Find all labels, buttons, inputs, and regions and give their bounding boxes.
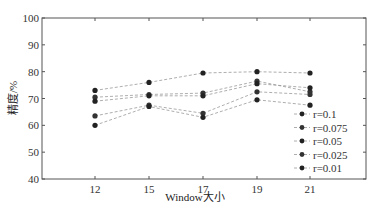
legend-item: r=0.075 bbox=[294, 122, 348, 134]
legend-label: r=0.01 bbox=[313, 162, 342, 174]
y-tick-label: 40 bbox=[28, 173, 40, 185]
x-tick-label: 15 bbox=[144, 183, 156, 195]
data-point bbox=[146, 80, 151, 85]
data-point bbox=[254, 89, 259, 94]
x-axis: 1215171921 bbox=[90, 18, 316, 195]
legend-marker bbox=[300, 152, 305, 157]
x-tick-label: 19 bbox=[252, 183, 264, 195]
legend-marker bbox=[300, 139, 305, 144]
legend-marker bbox=[300, 112, 305, 117]
x-tick-label: 21 bbox=[305, 183, 316, 195]
legend-item: r=0.025 bbox=[294, 149, 348, 161]
legend-item: r=0.1 bbox=[294, 108, 337, 120]
data-point bbox=[307, 85, 312, 90]
data-point bbox=[307, 70, 312, 75]
data-point bbox=[254, 81, 259, 86]
y-tick-label: 70 bbox=[28, 93, 40, 105]
data-point bbox=[307, 92, 312, 97]
legend-label: r=0.025 bbox=[313, 149, 348, 161]
y-axis-label: 精度/% bbox=[6, 81, 19, 115]
data-point bbox=[92, 99, 97, 104]
x-axis-label: Window大小 bbox=[165, 190, 224, 203]
x-tick-label: 12 bbox=[90, 183, 101, 195]
y-tick-label: 100 bbox=[23, 12, 40, 24]
data-point bbox=[92, 113, 97, 118]
legend-item: r=0.05 bbox=[294, 135, 343, 147]
data-point bbox=[254, 69, 259, 74]
legend-label: r=0.075 bbox=[313, 122, 348, 134]
legend-marker bbox=[300, 166, 305, 171]
data-point bbox=[146, 93, 151, 98]
data-point bbox=[146, 104, 151, 109]
series-layer bbox=[92, 69, 312, 128]
series-r=0.1 bbox=[92, 69, 312, 93]
data-point bbox=[254, 97, 259, 102]
data-point bbox=[92, 123, 97, 128]
legend-marker bbox=[300, 125, 305, 130]
legend: r=0.1r=0.075r=0.05r=0.025r=0.01 bbox=[294, 108, 348, 174]
legend-label: r=0.05 bbox=[313, 135, 343, 147]
data-point bbox=[307, 103, 312, 108]
data-point bbox=[200, 70, 205, 75]
y-tick-label: 60 bbox=[28, 119, 40, 131]
legend-label: r=0.1 bbox=[313, 108, 337, 120]
legend-item: r=0.01 bbox=[294, 162, 342, 174]
line-chart: 405060708090100 1215171921 r=0.1r=0.075r… bbox=[0, 0, 377, 210]
data-point bbox=[200, 93, 205, 98]
y-tick-label: 90 bbox=[28, 39, 40, 51]
data-point bbox=[92, 88, 97, 93]
y-tick-label: 50 bbox=[28, 146, 40, 158]
data-point bbox=[200, 115, 205, 120]
y-tick-label: 80 bbox=[28, 66, 40, 78]
